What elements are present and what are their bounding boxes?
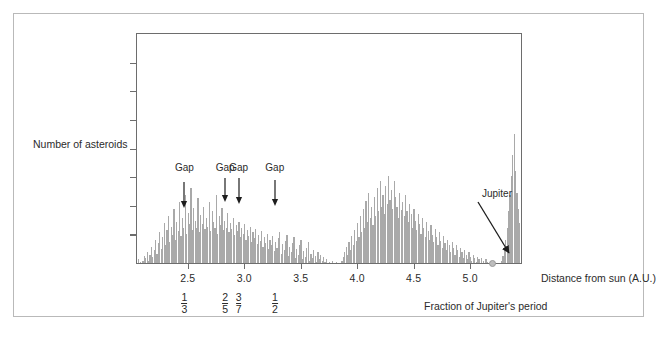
histogram-bar — [487, 262, 488, 263]
x-axis-tick-label: 3.5 — [293, 272, 308, 284]
y-axis-label: Number of asteroids — [33, 138, 128, 150]
x-axis-title: Distance from sun (A.U.) — [541, 272, 656, 284]
x-axis-tick — [414, 264, 415, 269]
histogram-plot-area — [137, 34, 521, 263]
y-axis-tick — [130, 63, 136, 64]
x-axis-tick-label: 2.5 — [180, 272, 195, 284]
y-axis-tick — [130, 234, 136, 235]
x-axis-tick — [244, 264, 245, 269]
x-axis-tick — [188, 264, 189, 269]
x-axis-tick-label: 5.0 — [463, 272, 478, 284]
period-fraction: 13 — [181, 292, 187, 315]
gap-arrow-icon — [180, 182, 189, 208]
gap-label: Gap — [229, 162, 248, 173]
histogram-bar — [332, 261, 333, 263]
x-axis-tick-label: 3.0 — [237, 272, 252, 284]
x-axis-tick-label: 4.5 — [406, 272, 421, 284]
fraction-numerator: 2 — [222, 292, 228, 303]
gap-label: Gap — [175, 162, 194, 173]
period-fraction: 37 — [236, 292, 242, 315]
x-axis-tick — [301, 264, 302, 269]
x-axis-tick-label: 4.0 — [350, 272, 365, 284]
y-axis-tick — [130, 149, 136, 150]
histogram-bar — [326, 259, 327, 263]
fraction-numerator: 3 — [236, 292, 242, 303]
y-axis-tick — [130, 120, 136, 121]
period-fraction: 12 — [272, 292, 278, 315]
x-axis-tick — [470, 264, 471, 269]
fraction-denominator: 2 — [272, 303, 278, 315]
y-axis-tick — [130, 177, 136, 178]
histogram-bar — [140, 262, 141, 263]
period-fraction: 25 — [222, 292, 228, 315]
gap-arrow-icon — [221, 178, 230, 202]
histogram-bar — [478, 259, 479, 263]
fraction-denominator: 3 — [181, 303, 187, 315]
jupiter-arrow-icon — [474, 198, 526, 260]
histogram-bar — [483, 261, 484, 263]
gap-label: Gap — [265, 162, 284, 173]
histogram-bar — [329, 262, 330, 263]
fraction-numerator: 1 — [181, 292, 187, 303]
fraction-denominator: 7 — [236, 303, 242, 315]
fraction-numerator: 1 — [272, 292, 278, 303]
y-axis-tick — [130, 206, 136, 207]
gap-arrow-icon — [270, 180, 279, 206]
secondary-axis-title: Fraction of Jupiter's period — [424, 300, 547, 312]
x-axis-tick — [357, 264, 358, 269]
fraction-denominator: 5 — [222, 303, 228, 315]
figure-root: Number of asteroids Distance from sun (A… — [0, 0, 658, 347]
y-axis-tick — [130, 91, 136, 92]
gap-arrow-icon — [234, 178, 243, 204]
histogram-bar — [336, 262, 337, 263]
